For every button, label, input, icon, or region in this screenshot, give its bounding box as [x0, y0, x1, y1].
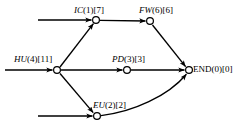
node-circle-pd[interactable] — [124, 67, 131, 74]
node-slack-fw: [6] — [163, 5, 174, 15]
node-duration-end: (0) — [212, 64, 223, 74]
node-duration-ic: (1) — [83, 5, 94, 15]
node-slack-hu: [11] — [38, 54, 53, 64]
node-slack-pd: [3] — [135, 54, 146, 64]
node-duration-pd: (3) — [124, 54, 135, 64]
node-code-ic: IC — [74, 5, 83, 15]
node-label-end: END(0)[0] — [193, 64, 233, 74]
node-label-fw: FW(6)[6] — [139, 5, 173, 15]
node-slack-eu: [2] — [116, 100, 127, 110]
activity-network-diagram: IC(1)[7] FW(6)[6] HU(4)[11] PD(3)[3] END… — [0, 0, 246, 126]
node-circle-hu[interactable] — [54, 67, 61, 74]
node-label-ic: IC(1)[7] — [74, 5, 104, 15]
node-slack-end: [0] — [222, 64, 233, 74]
edge-fw-to-end — [153, 25, 186, 67]
node-label-pd: PD(3)[3] — [112, 54, 145, 64]
node-label-eu: EU(2)[2] — [93, 100, 126, 110]
edge-hu-to-eu — [60, 74, 93, 113]
node-code-fw: FW — [139, 5, 152, 15]
node-circle-fw[interactable] — [147, 18, 154, 25]
node-code-end: END — [193, 64, 212, 74]
node-circle-eu[interactable] — [94, 113, 101, 120]
node-circle-end[interactable] — [186, 67, 193, 74]
node-duration-hu: (4) — [27, 54, 38, 64]
node-label-hu: HU(4)[11] — [14, 54, 52, 64]
node-slack-ic: [7] — [94, 5, 105, 15]
node-code-hu: HU — [14, 54, 27, 64]
node-duration-eu: (2) — [105, 100, 116, 110]
node-code-eu: EU — [93, 100, 105, 110]
edge-hu-to-ic — [60, 24, 93, 67]
edge-ic-to-fw — [100, 20, 146, 21]
node-circle-ic[interactable] — [93, 17, 100, 24]
node-duration-fw: (6) — [152, 5, 163, 15]
node-code-pd: PD — [112, 54, 124, 64]
